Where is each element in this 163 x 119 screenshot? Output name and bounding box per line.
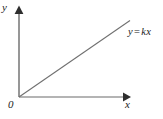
y-axis-label: y: [2, 2, 7, 13]
line-y-equals-kx: [19, 21, 130, 98]
equation-rhs: kx: [141, 26, 151, 37]
y-axis-arrowhead-icon: [15, 6, 24, 15]
origin-label: 0: [8, 99, 14, 110]
equation-label: y=kx: [128, 26, 151, 37]
coordinate-plot-svg: [0, 0, 163, 119]
linear-function-figure: y x 0 y=kx: [0, 0, 163, 119]
x-axis-label: x: [125, 99, 130, 110]
equation-operator: =: [133, 26, 141, 37]
